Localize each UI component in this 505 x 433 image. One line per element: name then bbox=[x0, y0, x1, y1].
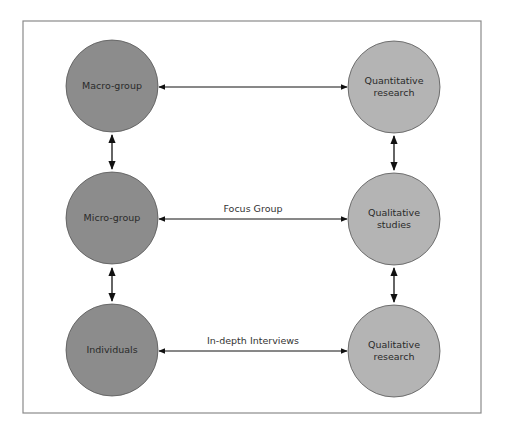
node-label-line-2: studies bbox=[377, 219, 411, 230]
node-micro-group: Micro-group bbox=[66, 172, 158, 264]
node-qualitative-studies: Qualitative studies bbox=[348, 173, 440, 265]
node-label-line-1: Quantitative bbox=[364, 75, 423, 86]
node-label-line-1: Qualitative bbox=[368, 207, 420, 218]
node-qualitative-research: Qualitative research bbox=[348, 305, 440, 397]
edge-label-in-depth-interviews: In-depth Interviews bbox=[207, 335, 299, 346]
node-label: Macro-group bbox=[82, 80, 142, 91]
diagram-canvas: Focus Group In-depth Interviews Macro-gr… bbox=[0, 0, 505, 433]
node-macro-group: Macro-group bbox=[66, 40, 158, 132]
node-label-line-1: Qualitative bbox=[368, 339, 420, 350]
node-label-line-2: research bbox=[373, 351, 414, 362]
node-label: Micro-group bbox=[84, 212, 141, 223]
node-label: Individuals bbox=[86, 344, 137, 355]
node-quantitative-research: Quantitative research bbox=[348, 41, 440, 133]
node-individuals: Individuals bbox=[66, 304, 158, 396]
edge-label-focus-group: Focus Group bbox=[223, 203, 282, 214]
node-label-line-2: research bbox=[373, 87, 414, 98]
